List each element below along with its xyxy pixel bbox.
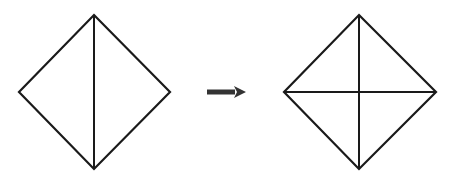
after-diamond: [284, 15, 436, 169]
arrow-right-icon: [207, 86, 246, 98]
before-diamond: [19, 15, 170, 169]
folding-diagram: [0, 0, 458, 177]
